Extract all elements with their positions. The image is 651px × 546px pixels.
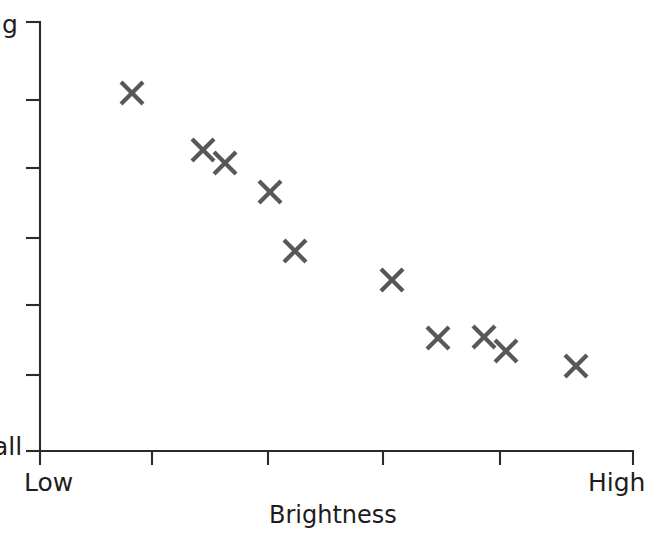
- data-point-marker: [284, 240, 306, 262]
- y-axis-top-label: ig: [0, 12, 18, 37]
- data-point-series: [121, 82, 587, 377]
- x-axis-left-label: Low: [24, 470, 73, 495]
- data-point-marker: [381, 269, 403, 291]
- x-axis-right-label: High: [588, 470, 645, 495]
- data-point-marker: [495, 340, 517, 362]
- data-point-marker: [473, 326, 495, 348]
- x-axis-title: Brightness: [269, 503, 397, 527]
- data-point-marker: [259, 181, 281, 203]
- y-axis-group: [26, 22, 40, 451]
- data-point-marker: [192, 139, 214, 161]
- plot-canvas: [0, 0, 651, 546]
- x-axis-group: [40, 451, 633, 465]
- data-point-marker: [121, 82, 143, 104]
- data-point-marker: [214, 152, 236, 174]
- y-axis-bottom-label: all: [0, 434, 22, 459]
- scatter-plot-figure: ig all Low High Brightness: [0, 0, 651, 546]
- data-point-marker: [427, 327, 449, 349]
- data-point-marker: [565, 355, 587, 377]
